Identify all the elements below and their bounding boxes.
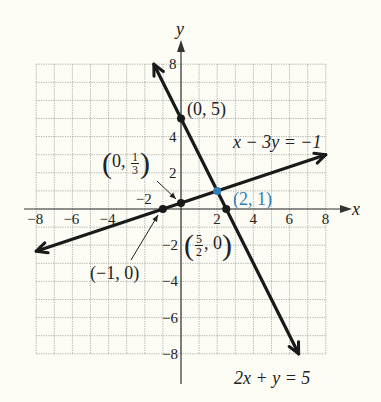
x-tick-label: 4 [249, 212, 257, 227]
x-tick-label: 6 [286, 212, 294, 227]
denominator: 2 [195, 246, 203, 258]
y-tick-label: −2 [162, 238, 178, 253]
fraction-one-third: 13 [131, 151, 139, 176]
x-axis-label: x [352, 200, 360, 218]
y-tick-label: 8 [169, 57, 177, 72]
point-label-five-halves-0: (52, 0) [184, 230, 232, 260]
point-label-neg1-0: (−1, 0) [90, 264, 139, 282]
x-tick-label: −6 [63, 212, 79, 227]
coordinate-plane [0, 0, 381, 402]
y-tick-label: −6 [162, 311, 178, 326]
left-paren: ( [102, 146, 112, 179]
point-label-text: , 0 [204, 233, 222, 253]
denominator: 3 [131, 164, 139, 176]
point-label-0-5: (0, 5) [187, 100, 226, 118]
numerator: 5 [195, 233, 203, 246]
point-label-text: 0, [112, 151, 126, 171]
x-tick-label: −4 [100, 212, 116, 227]
left-paren: ( [184, 228, 194, 261]
right-paren: ) [140, 146, 150, 179]
y-tick-label: −8 [162, 347, 178, 362]
point-label-0-one-third: (0, 13) [102, 148, 150, 178]
numerator: 1 [131, 151, 139, 164]
x-tick-label: 2 [213, 212, 221, 227]
equation-label-line2: 2x + y = 5 [234, 369, 310, 387]
y-axis-label: y [176, 20, 184, 38]
x-tick-label: 8 [322, 212, 330, 227]
fraction-five-halves: 52 [195, 233, 203, 258]
y-tick-label: −4 [162, 274, 178, 289]
x-tick-label: −2 [136, 192, 152, 207]
point-label-intersection-2-1: (2, 1) [233, 190, 272, 208]
y-tick-label: 2 [169, 166, 177, 181]
y-tick-label: 4 [169, 130, 177, 145]
equation-label-line1: x − 3y = −1 [233, 133, 321, 151]
x-tick-label: −8 [27, 212, 43, 227]
right-paren: ) [222, 228, 232, 261]
